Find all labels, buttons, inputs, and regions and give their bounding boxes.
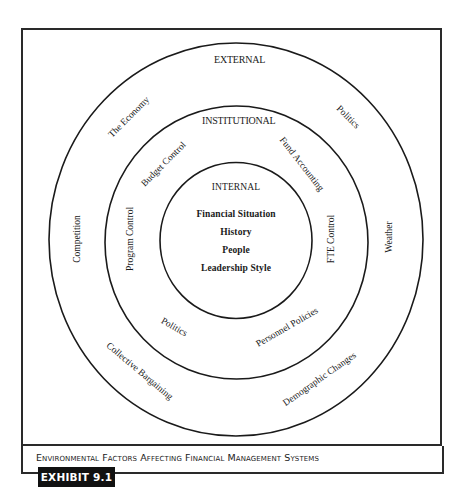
internal-factor-people: People (160, 245, 312, 255)
caption-title: Environmental Factors Affecting Financia… (36, 452, 319, 463)
institutional-factor-fte-control: FTE Control (326, 215, 336, 263)
internal-factor-history: History (160, 227, 312, 237)
internal-factor-leadership-style: Leadership Style (160, 263, 312, 273)
exhibit-label: EXHIBIT 9.1 (38, 467, 115, 487)
external-factor-weather: Weather (384, 221, 394, 252)
external-factor-competition: Competition (72, 215, 82, 263)
internal-factor-financial-situation: Financial Situation (160, 209, 312, 219)
institutional-ring-title: INSTITUTIONAL (202, 115, 276, 126)
internal-ring-title: INTERNAL (160, 182, 312, 192)
institutional-factor-program-control: Program Control (125, 207, 135, 271)
external-ring-title: EXTERNAL (214, 54, 265, 65)
